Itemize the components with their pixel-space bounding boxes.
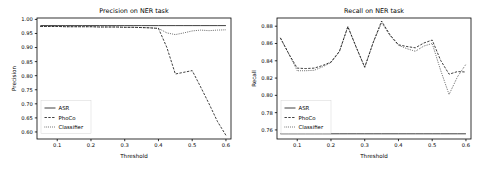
legend-label-phoco: PhoCo [59, 115, 76, 121]
x-tick-label: 0.1 [53, 142, 61, 148]
recall-chart-panel: Recall on NER task0.10.20.30.40.50.60.76… [240, 0, 479, 171]
y-tick-label: 0.60 [21, 129, 33, 135]
x-tick-label: 0.4 [394, 142, 403, 148]
y-tick-label: 0.65 [21, 115, 33, 121]
x-axis-label: Threshold [359, 153, 388, 159]
precision-chart-svg: Precision on NER task0.10.20.30.40.50.60… [0, 0, 240, 171]
y-axis-label: Precision [11, 66, 17, 91]
legend-label-phoco: PhoCo [298, 115, 315, 121]
y-tick-label: 0.78 [261, 110, 273, 116]
chart-title: Recall on NER task [344, 7, 404, 15]
recall-chart-svg: Recall on NER task0.10.20.30.40.50.60.76… [240, 0, 479, 171]
y-tick-label: 0.76 [261, 127, 273, 133]
x-tick-label: 0.6 [461, 142, 469, 148]
x-tick-label: 0.3 [121, 142, 129, 148]
x-tick-label: 0.4 [154, 142, 163, 148]
x-tick-label: 0.6 [222, 142, 230, 148]
series-line-classifier [280, 23, 466, 95]
y-tick-label: 0.75 [21, 87, 33, 93]
legend-label-classifier: Classifier [298, 124, 323, 130]
y-tick-label: 0.95 [21, 30, 33, 36]
legend-label-asr: ASR [298, 105, 309, 111]
y-tick-label: 0.70 [21, 101, 33, 107]
figure-container: Precision on NER task0.10.20.30.40.50.60… [0, 0, 479, 171]
series-line-phoco [280, 21, 466, 74]
x-axis-label: Threshold [119, 153, 148, 159]
y-tick-label: 0.82 [261, 75, 273, 81]
y-tick-label: 0.90 [21, 44, 33, 50]
y-tick-label: 0.85 [21, 59, 33, 65]
legend-label-asr: ASR [59, 105, 70, 111]
precision-chart-panel: Precision on NER task0.10.20.30.40.50.60… [0, 0, 240, 171]
y-axis-label: Recall [250, 70, 256, 87]
y-tick-label: 0.80 [261, 92, 273, 98]
y-tick-label: 0.88 [261, 23, 273, 29]
x-tick-label: 0.2 [326, 142, 334, 148]
x-tick-label: 0.3 [360, 142, 368, 148]
x-tick-label: 0.1 [293, 142, 301, 148]
x-tick-label: 0.5 [188, 142, 196, 148]
x-tick-label: 0.5 [428, 142, 436, 148]
y-tick-label: 0.86 [261, 40, 273, 46]
y-tick-label: 0.84 [261, 58, 273, 64]
y-tick-label: 0.80 [21, 73, 33, 79]
x-tick-label: 0.2 [87, 142, 95, 148]
chart-title: Precision on NER task [99, 7, 169, 15]
y-tick-label: 1.00 [21, 16, 33, 22]
legend-label-classifier: Classifier [59, 124, 84, 130]
